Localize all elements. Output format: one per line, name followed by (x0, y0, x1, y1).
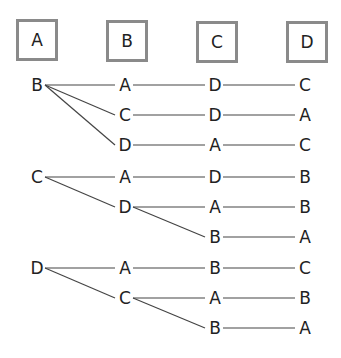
tree-node-b: B (31, 75, 43, 95)
branch-line (133, 298, 205, 328)
tree-node-badc: C (299, 75, 311, 95)
tree-node-bad: D (208, 75, 221, 95)
tree-node-dcb: B (209, 318, 221, 338)
tree-node-dcab: B (299, 288, 311, 308)
tree-node-dcba: A (299, 318, 311, 338)
tree-node-cda: A (209, 197, 221, 217)
tree-node-cd: D (118, 197, 131, 217)
tree-node-d: D (30, 258, 43, 278)
branch-line (45, 85, 115, 115)
branch-line (45, 85, 115, 145)
tree-node-bcd: D (208, 105, 221, 125)
tree-node-bcda: A (299, 105, 311, 125)
tree-node-ca: A (119, 167, 131, 187)
tree-node-cdb: B (209, 227, 221, 247)
tree-diagram: BADCCDADACCADBDABBADABCCABBA (0, 0, 341, 358)
tree-node-dabc: C (299, 258, 311, 278)
tree-node-cdba: A (299, 227, 311, 247)
branch-line (45, 268, 115, 298)
tree-node-dab: B (209, 258, 221, 278)
tree-node-cadb: B (299, 167, 311, 187)
tree-node-c: C (31, 167, 43, 187)
tree-node-bc: C (119, 105, 131, 125)
branch-line (45, 177, 115, 207)
tree-node-cad: D (208, 167, 221, 187)
tree-node-bd: D (118, 135, 131, 155)
tree-node-dca: A (209, 288, 221, 308)
tree-node-bdac: C (299, 135, 311, 155)
tree-node-ba: A (119, 75, 131, 95)
branch-line (133, 207, 205, 237)
tree-node-cdab: B (299, 197, 311, 217)
tree-node-bda: A (209, 135, 221, 155)
tree-node-da: A (119, 258, 131, 278)
tree-node-dc: C (119, 288, 131, 308)
